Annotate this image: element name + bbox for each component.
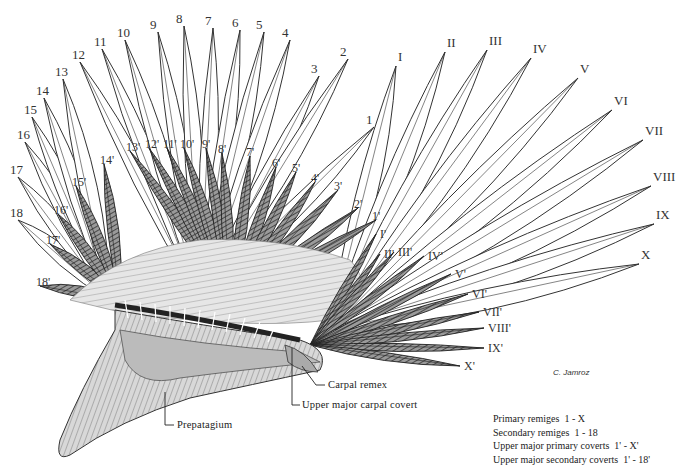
secondary-covert-label: 14' [100, 154, 114, 167]
secondary-covert-label: 17' [46, 234, 60, 247]
secondary-remex-label: 11 [94, 35, 107, 48]
primary-remex-label: II [447, 36, 456, 49]
secondary-covert-label: 6' [272, 157, 280, 170]
carpal-remex-callout: Carpal remex [328, 379, 387, 390]
primary-remex-label: V [580, 62, 589, 75]
primary-remex-label: VIII [653, 170, 675, 183]
primary-remex-label: IV [533, 42, 547, 55]
wing-diagram: 123456789101112131415161718IIIIIIIVVVIVI… [0, 0, 689, 473]
secondary-covert-label: 12' [145, 138, 159, 151]
secondary-remex-label: 15 [24, 103, 37, 116]
secondary-remex-label: 10 [117, 26, 130, 39]
secondary-covert-label: 15' [72, 176, 86, 189]
primary-remex-label: VII [645, 124, 663, 137]
secondary-remex-label: 2 [340, 45, 347, 58]
primary-remex-label: III [489, 34, 502, 47]
secondary-covert-label: 5' [292, 162, 300, 175]
legend: Primary remiges 1 - X Secondary remiges … [493, 412, 650, 466]
prepatagium-callout: Prepatagium [177, 419, 232, 430]
secondary-remex-label: 17 [10, 163, 23, 176]
secondary-covert-label: 7' [246, 146, 254, 159]
secondary-covert-label: 18' [36, 276, 50, 289]
primary-remex-label: VI [614, 94, 628, 107]
primary-covert-label: I' [380, 228, 386, 241]
primary-covert-label: III' [398, 246, 412, 259]
secondary-remex-label: 7 [205, 14, 212, 27]
secondary-remex-label: 1 [366, 113, 373, 126]
secondary-covert-label: 8' [218, 143, 226, 156]
secondary-covert-label: 9' [202, 138, 210, 151]
secondary-remex-label: 3 [311, 62, 318, 75]
primary-covert-label: V' [455, 268, 466, 281]
secondary-remex-label: 12 [72, 48, 85, 61]
secondary-remex-label: 13 [55, 65, 68, 78]
primary-covert-label: VI' [472, 288, 487, 301]
secondary-remex-label: 8 [176, 12, 183, 25]
secondary-remex-label: 14 [36, 84, 49, 97]
secondary-covert-label: 1' [372, 210, 380, 223]
secondary-remex-label: 16 [17, 128, 30, 141]
upper-major-carpal-covert-callout: Upper major carpal covert [302, 399, 418, 410]
primary-covert-label: IX' [488, 342, 503, 355]
secondary-remex-label: 4 [282, 26, 289, 39]
primary-covert-label: VIII' [488, 322, 511, 335]
legend-item-secondary-remiges: Secondary remiges 1 - 18 [493, 426, 650, 440]
primary-covert-label: X' [464, 360, 475, 373]
primary-covert-label: VII' [483, 306, 502, 319]
secondary-remex-label: 5 [256, 18, 263, 31]
artist-signature: C. Jamroz [553, 368, 589, 377]
secondary-covert-label: 3' [334, 180, 342, 193]
secondary-remex-label: 18 [10, 206, 23, 219]
secondary-remex-label: 6 [232, 16, 239, 29]
primary-remex-label: X [641, 248, 650, 261]
secondary-covert-label: 2' [354, 198, 362, 211]
primary-remex-label: IX [656, 208, 670, 221]
secondary-covert-label: 10' [180, 138, 194, 151]
secondary-covert-label: 16' [54, 204, 68, 217]
legend-item-primary-coverts: Upper major primary coverts 1' - X' [493, 439, 650, 453]
primary-remex-label: I [398, 50, 402, 63]
primary-covert-label: IV' [428, 250, 443, 263]
legend-item-primary-remiges: Primary remiges 1 - X [493, 412, 650, 426]
legend-item-secondary-coverts: Upper major secondary coverts 1' - 18' [493, 453, 650, 467]
secondary-covert-label: 13' [126, 141, 140, 154]
secondary-covert-label: 11' [163, 138, 177, 151]
secondary-covert-label: 4' [311, 172, 319, 185]
primary-covert-label: II' [384, 248, 394, 261]
secondary-remex-label: 9 [150, 18, 157, 31]
